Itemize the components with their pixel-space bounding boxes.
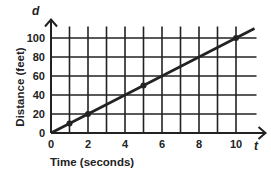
x-tick-label: 0 [48, 138, 54, 150]
y-tick-label: 20 [33, 108, 45, 120]
x-axis-variable: t [254, 139, 259, 153]
y-axis-title: Distance (feet) [14, 47, 26, 126]
x-tick-label: 8 [196, 138, 202, 150]
x-tick-label: 6 [159, 138, 165, 150]
x-tick-labels: 0246810 [48, 138, 242, 150]
y-axis-variable: d [32, 4, 40, 18]
data-line [51, 29, 255, 134]
x-tick-label: 10 [230, 138, 242, 150]
y-tick-label: 100 [27, 32, 45, 44]
y-tick-labels: 020406080100 [27, 32, 45, 139]
chart: 0246810 020406080100 d t Time (seconds) … [0, 0, 271, 175]
y-tick-label: 80 [33, 51, 45, 63]
data-point [67, 121, 73, 127]
x-axis-title: Time (seconds) [50, 156, 134, 168]
x-tick-label: 4 [122, 138, 129, 150]
y-tick-label: 60 [33, 70, 45, 82]
y-tick-label: 40 [33, 89, 45, 101]
y-tick-label: 0 [39, 127, 45, 139]
data-point [85, 111, 91, 117]
data-point [141, 83, 147, 89]
x-tick-label: 2 [85, 138, 91, 150]
data-point [233, 35, 239, 41]
